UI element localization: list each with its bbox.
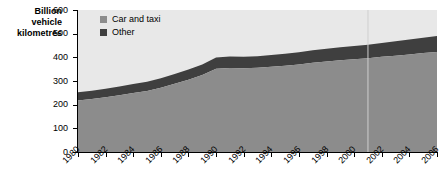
- stacked-area-chart: Billion vehicle kilometres 0100200300400…: [0, 0, 443, 186]
- y-tick-mark: [73, 105, 78, 106]
- y-tick-mark: [73, 128, 78, 129]
- legend-swatch-icon: [100, 29, 107, 36]
- y-tick-label: 200: [28, 100, 68, 109]
- legend-item: Other: [100, 28, 161, 37]
- y-tick-mark: [73, 34, 78, 35]
- y-tick-label: 600: [28, 6, 68, 15]
- y-tick-mark: [73, 10, 78, 11]
- legend-item: Car and taxi: [100, 15, 161, 24]
- legend: Car and taxiOther: [100, 15, 161, 41]
- y-tick-mark: [73, 57, 78, 58]
- legend-swatch-icon: [100, 16, 107, 23]
- y-tick-label: 500: [28, 29, 68, 38]
- y-tick-label: 400: [28, 53, 68, 62]
- legend-label: Car and taxi: [112, 15, 161, 24]
- legend-label: Other: [112, 28, 135, 37]
- y-tick-label: 300: [28, 77, 68, 86]
- y-axis-title-line-2: vehicle: [0, 17, 62, 28]
- y-tick-label: 100: [28, 124, 68, 133]
- y-tick-mark: [73, 81, 78, 82]
